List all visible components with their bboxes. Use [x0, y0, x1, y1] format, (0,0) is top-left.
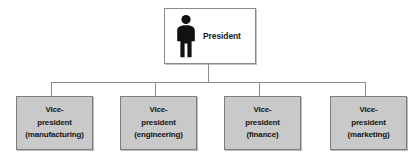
connector-child-vertical-4: [365, 82, 366, 96]
connector-horizontal-bus: [51, 82, 366, 83]
connector-child-vertical-2: [155, 82, 156, 96]
vp-title-line-1: Vice-: [45, 104, 63, 117]
vp-department-label: (engineering): [134, 129, 183, 142]
vp-title-line-2: president: [37, 117, 72, 130]
vice-president-node-finance[interactable]: Vice- president (finance): [224, 96, 301, 150]
vp-department-label: (finance): [247, 129, 279, 142]
vice-president-node-manufacturing[interactable]: Vice- president (manufacturing): [16, 96, 93, 150]
person-figure-icon: [171, 14, 201, 58]
vp-department-label: (marketing): [348, 129, 390, 142]
connector-child-vertical-1: [51, 82, 52, 96]
vice-president-node-marketing[interactable]: Vice- president (marketing): [330, 96, 407, 150]
connector-root-vertical: [208, 64, 209, 82]
president-node[interactable]: President: [164, 8, 256, 64]
vp-title-line-2: president: [245, 117, 280, 130]
vp-title-line-1: Vice-: [359, 104, 377, 117]
vice-president-node-engineering[interactable]: Vice- president (engineering): [120, 96, 197, 150]
organization-chart: President Vice- president (manufacturing…: [0, 0, 418, 165]
vp-title-line-1: Vice-: [253, 104, 271, 117]
vp-department-label: (manufacturing): [25, 129, 84, 142]
connector-child-vertical-3: [259, 82, 260, 96]
vp-title-line-1: Vice-: [149, 104, 167, 117]
president-label: President: [203, 32, 241, 41]
vp-title-line-2: president: [351, 117, 386, 130]
vp-title-line-2: president: [141, 117, 176, 130]
